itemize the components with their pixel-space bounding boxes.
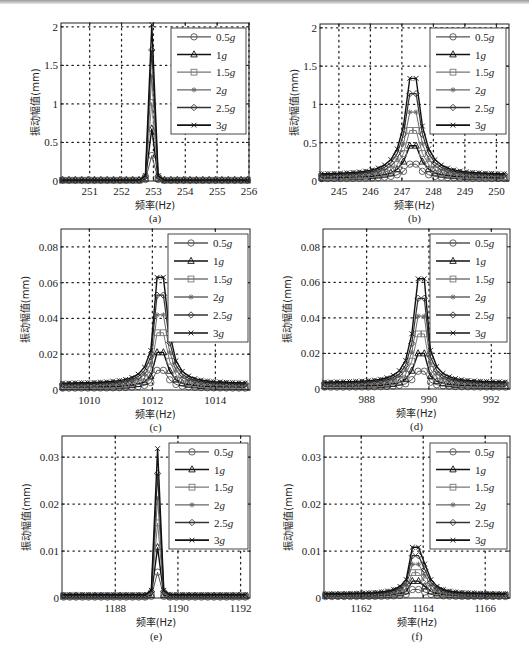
subplot-caption: (b)	[408, 212, 421, 225]
x-tick-label: 253	[145, 185, 162, 197]
y-axis-label: 振动幅值(mm)	[288, 69, 300, 136]
subplot-a: 25125225325425525600.511.52频率(Hz)振动幅值(mm…	[29, 21, 258, 225]
legend-label: 1.5g	[214, 481, 234, 493]
legend: 0.5g1g1.5g2g2.5g3g	[168, 234, 248, 342]
x-tick-label: 1192	[230, 602, 252, 614]
x-tick-label: 1012	[141, 394, 163, 406]
x-tick-label: 249	[457, 185, 474, 197]
y-axis-label: 振动幅值(mm)	[29, 68, 41, 135]
legend-label: 2.5g	[213, 309, 233, 321]
legend-label: 0.5g	[475, 237, 495, 249]
legend-label: 1g	[475, 49, 487, 61]
y-tick-label: 0	[312, 175, 318, 187]
legend-label: 2g	[216, 84, 228, 96]
legend-label: 2.5g	[216, 102, 236, 114]
x-axis-label: 频率(Hz)	[135, 199, 176, 211]
legend-label: 2g	[214, 499, 226, 511]
subplot-f: 11621164116600.010.020.03频率(Hz)振动幅值(mm)(…	[282, 436, 510, 643]
y-tick-label: 0.04	[301, 312, 321, 324]
x-tick-label: 248	[425, 185, 442, 197]
legend-label: 2g	[213, 291, 225, 303]
y-tick-label: 1	[53, 98, 59, 110]
x-tick-label: 988	[358, 393, 375, 405]
legend-label: 2g	[475, 291, 487, 303]
legend: 0.5g1g1.5g2g2.5g3g	[430, 234, 507, 342]
legend-label: 1.5g	[475, 481, 495, 493]
legend-label: 1g	[475, 255, 487, 267]
y-tick-label: 0.06	[39, 277, 59, 289]
y-tick-label: 0.02	[301, 347, 320, 359]
legend-label: 0.5g	[475, 31, 495, 43]
x-tick-label: 1166	[474, 602, 496, 614]
legend-label: 1g	[475, 464, 487, 476]
x-tick-label: 255	[209, 185, 226, 197]
legend: 0.5g1g1.5g2g2.5g3g	[430, 28, 506, 134]
figure-canvas: 25125225325425525600.511.52频率(Hz)振动幅值(mm…	[0, 0, 529, 661]
2g-marker-icon	[188, 294, 193, 299]
y-tick-label: 2	[53, 21, 59, 33]
y-tick-label: 0.04	[39, 312, 59, 324]
legend-label: 1.5g	[475, 273, 495, 285]
y-tick-label: 0	[53, 175, 59, 187]
legend-label: 0.5g	[475, 446, 495, 458]
x-tick-label: 1188	[104, 602, 126, 614]
subplot-caption: (e)	[150, 630, 163, 643]
2g-marker-icon	[416, 562, 421, 567]
x-tick-label: 1190	[167, 602, 189, 614]
subplot-caption: (a)	[149, 212, 162, 225]
x-tick-label: 245	[331, 185, 348, 197]
y-tick-label: 0.5	[44, 136, 58, 148]
y-tick-label: 1	[312, 98, 318, 110]
subplot-caption: (c)	[149, 421, 162, 434]
y-axis-label: 振动幅值(mm)	[20, 483, 32, 550]
legend-label: 1g	[216, 49, 228, 61]
y-tick-label: 0	[316, 592, 322, 604]
y-tick-label: 0.08	[301, 241, 321, 253]
y-tick-label: 0.06	[301, 276, 321, 288]
y-tick-label: 2	[312, 22, 318, 34]
y-tick-label: 0.03	[302, 451, 322, 463]
legend-label: 3g	[475, 534, 487, 546]
x-tick-label: 250	[488, 185, 505, 197]
legend-label: 2g	[475, 84, 487, 96]
x-tick-label: 247	[394, 185, 411, 197]
legend-label: 3g	[475, 119, 487, 131]
subplot-caption: (f)	[412, 630, 423, 643]
subplot-c: 10101012101400.020.040.060.08频率(Hz)振动幅值(…	[19, 229, 250, 434]
legend-label: 1.5g	[213, 273, 233, 285]
x-axis-label: 频率(Hz)	[397, 616, 438, 628]
legend-label: 2.5g	[475, 309, 495, 321]
y-tick-label: 0.02	[39, 348, 58, 360]
x-tick-label: 1164	[412, 602, 434, 614]
x-tick-label: 1162	[350, 602, 372, 614]
y-tick-label: 0.02	[40, 498, 59, 510]
x-axis-label: 频率(Hz)	[136, 616, 177, 628]
legend: 0.5g1g1.5g2g2.5g3g	[169, 443, 248, 549]
y-tick-label: 0.03	[40, 451, 60, 463]
legend-label: 3g	[213, 327, 225, 339]
y-axis-label: 振动幅值(mm)	[282, 483, 294, 550]
x-tick-label: 1010	[78, 394, 101, 406]
legend: 0.5g1g1.5g2g2.5g3g	[171, 28, 246, 134]
x-axis-label: 频率(Hz)	[396, 407, 437, 419]
x-tick-label: 992	[483, 393, 500, 405]
2g-marker-icon	[450, 502, 455, 507]
y-tick-label: 0.01	[40, 545, 59, 557]
legend-label: 0.5g	[216, 31, 236, 43]
y-tick-label: 0.01	[302, 545, 321, 557]
legend-label: 0.5g	[213, 237, 233, 249]
legend-label: 2.5g	[214, 517, 234, 529]
x-tick-label: 251	[81, 185, 98, 197]
x-tick-label: 254	[177, 185, 194, 197]
legend-label: 0.5g	[214, 446, 234, 458]
subplot-b: 24524624724824925000.511.52频率(Hz)振动幅值(mm…	[288, 22, 509, 225]
subplot-d: 98899099200.020.040.060.08频率(Hz)振动幅值(mm)…	[281, 229, 510, 433]
x-tick-label: 990	[421, 393, 438, 405]
legend-label: 2g	[475, 499, 487, 511]
subplot-caption: (d)	[410, 420, 423, 433]
legend-label: 1.5g	[475, 66, 495, 78]
legend-label: 2.5g	[475, 517, 495, 529]
2g-marker-icon	[189, 502, 194, 507]
legend-label: 3g	[475, 327, 487, 339]
y-tick-label: 0	[53, 384, 59, 396]
